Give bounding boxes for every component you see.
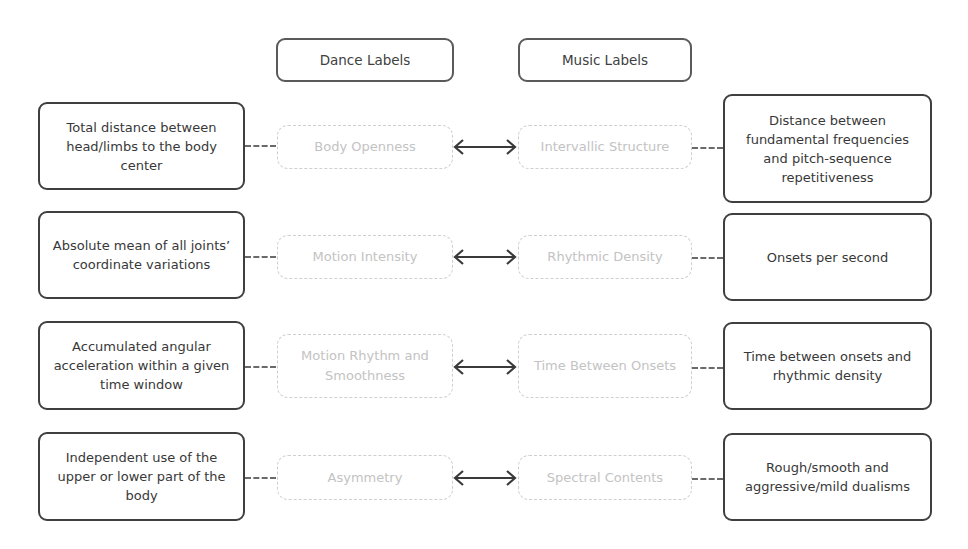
double-headed-arrow-icon (452, 357, 518, 377)
music-description-box: Onsets per second (723, 213, 932, 301)
dance-connector-dashed-line (245, 256, 276, 258)
music-description-box: Time between onsets and rhythmic density (723, 322, 932, 410)
dance-connector-dashed-line (245, 477, 276, 479)
music-feature-label: Spectral Contents (547, 468, 663, 488)
music-description-box: Rough/smooth and aggressive/mild dualism… (723, 433, 932, 521)
dance-feature-label: Asymmetry (328, 468, 403, 488)
music-description-text: Time between onsets and rhythmic density (735, 347, 920, 385)
dance-feature-label: Motion Intensity (313, 247, 418, 267)
music-connector-dashed-line (692, 478, 723, 480)
dance-feature-box: Body Openness (277, 125, 453, 169)
dance-description-text: Accumulated angular acceleration within … (50, 337, 233, 394)
music-feature-box: Rhythmic Density (518, 235, 692, 279)
music-description-text: Rough/smooth and aggressive/mild dualism… (735, 458, 920, 496)
dance-labels-header: Dance Labels (276, 38, 454, 82)
music-feature-box: Intervallic Structure (518, 125, 692, 169)
dance-description-text: Total distance between head/limbs to the… (50, 118, 233, 175)
dance-description-box: Total distance between head/limbs to the… (38, 102, 245, 190)
dance-description-box: Absolute mean of all joints’ coordinate … (38, 211, 245, 299)
music-labels-title: Music Labels (562, 52, 648, 68)
dance-feature-box: Motion Rhythm and Smoothness (277, 334, 453, 398)
music-feature-label: Time Between Onsets (534, 356, 676, 376)
double-headed-arrow-icon (452, 137, 518, 157)
music-connector-dashed-line (692, 367, 723, 369)
music-description-text: Onsets per second (767, 248, 888, 267)
music-description-box: Distance between fundamental frequencies… (723, 94, 932, 203)
dance-feature-label: Body Openness (314, 137, 415, 157)
double-headed-arrow-icon (452, 468, 518, 488)
music-feature-box: Spectral Contents (518, 455, 692, 500)
dance-labels-title: Dance Labels (320, 52, 411, 68)
double-headed-arrow-icon (452, 247, 518, 267)
dance-connector-dashed-line (245, 366, 276, 368)
dance-connector-dashed-line (245, 145, 276, 147)
dance-description-text: Independent use of the upper or lower pa… (50, 448, 233, 505)
dance-feature-label: Motion Rhythm and Smoothness (286, 346, 444, 386)
dance-feature-box: Asymmetry (277, 455, 453, 500)
music-feature-label: Intervallic Structure (541, 137, 670, 157)
dance-feature-box: Motion Intensity (277, 235, 453, 279)
dance-description-text: Absolute mean of all joints’ coordinate … (50, 236, 233, 274)
dance-description-box: Accumulated angular acceleration within … (38, 321, 245, 410)
music-feature-box: Time Between Onsets (518, 334, 692, 398)
music-description-text: Distance between fundamental frequencies… (735, 111, 920, 187)
dance-description-box: Independent use of the upper or lower pa… (38, 432, 245, 521)
music-connector-dashed-line (692, 147, 723, 149)
music-labels-header: Music Labels (518, 38, 692, 82)
music-feature-label: Rhythmic Density (547, 247, 662, 267)
music-connector-dashed-line (692, 257, 723, 259)
